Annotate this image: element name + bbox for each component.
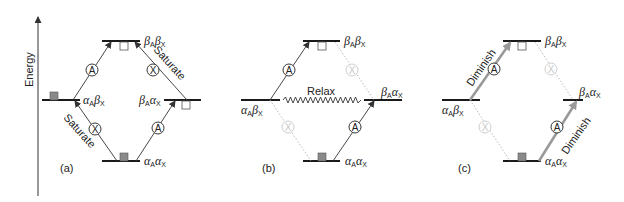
population-empty-square (120, 42, 128, 50)
transition-x-symbol: X (147, 64, 159, 76)
transition-a-symbol: A (86, 64, 98, 76)
svg-text:A: A (554, 122, 561, 133)
state-label-alpha-alpha: αAαX (144, 154, 166, 168)
transition-a-symbol: A (152, 122, 164, 134)
state-label-alpha-beta: αAβX (83, 93, 105, 107)
transition-a-symbol: A (349, 121, 361, 133)
energy-axis: Energy (23, 17, 38, 196)
panel-a: A X X A βAβX αAβX βAαX αAαX Saturate Sat… (42, 34, 201, 174)
panel-c: A X X A βAβX αAβX βAαX αAαX Diminish Dim… (442, 34, 601, 174)
faded-transition-x-symbol: X (545, 63, 557, 75)
population-filled-square (518, 153, 526, 161)
svg-text:A: A (491, 64, 498, 75)
transition-a-symbol: A (283, 64, 295, 76)
state-label-beta-beta: βAβX (544, 34, 567, 48)
saturate-annotation: Saturate (152, 43, 189, 82)
state-label-alpha-beta: αAβX (241, 103, 263, 117)
faded-transition-x-symbol: X (282, 121, 294, 133)
relaxation-zigzag (283, 97, 361, 103)
svg-text:A: A (286, 65, 293, 76)
energy-axis-label: Energy (23, 52, 35, 87)
state-label-beta-alpha: βAαX (578, 85, 601, 99)
noe-energy-level-diagram: Energy A X X A βAβX αAβX βAαX αAαX Satur… (0, 0, 624, 202)
population-empty-square (518, 42, 526, 50)
transition-a-symbol: A (551, 121, 563, 133)
population-filled-square (318, 153, 326, 161)
state-label-alpha-beta: αAβX (442, 103, 464, 117)
panel-label-c: (c) (458, 162, 471, 174)
svg-text:A: A (155, 123, 162, 134)
state-label-alpha-alpha: αAαX (545, 154, 567, 168)
svg-text:A: A (352, 122, 359, 133)
state-label-alpha-alpha: αAαX (345, 154, 367, 168)
faded-transition-x-symbol: X (479, 121, 491, 133)
panel-label-a: (a) (60, 162, 73, 174)
population-filled-square (120, 153, 128, 161)
state-label-beta-beta: βAβX (343, 34, 366, 48)
svg-text:X: X (548, 64, 555, 75)
panel-b: A X X A βAβX αAβX βAαX αAαX Relax (b) (241, 34, 403, 174)
svg-text:X: X (150, 65, 157, 76)
population-filled-square (50, 92, 58, 100)
population-empty-square (318, 42, 326, 50)
svg-text:X: X (92, 124, 99, 135)
state-label-beta-alpha: βAαX (138, 93, 161, 107)
relax-annotation: Relax (307, 85, 336, 97)
svg-text:A: A (89, 65, 96, 76)
svg-text:X: X (285, 122, 292, 133)
state-label-beta-alpha: βAαX (380, 85, 403, 99)
faded-transition-x-symbol: X (346, 64, 358, 76)
population-empty-square (182, 101, 190, 109)
svg-text:X: X (349, 65, 356, 76)
svg-text:X: X (482, 122, 489, 133)
panel-label-b: (b) (262, 162, 275, 174)
